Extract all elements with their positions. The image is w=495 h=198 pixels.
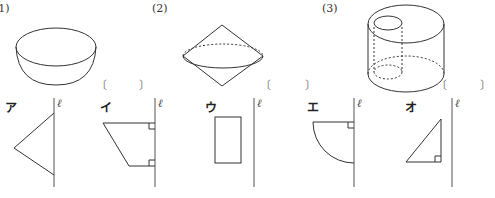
choice-label-u: ウ bbox=[205, 98, 217, 115]
figures-canvas bbox=[0, 0, 495, 198]
double-cone-figure bbox=[183, 25, 263, 86]
answer-field-2[interactable] bbox=[274, 76, 302, 90]
answer-field-3[interactable] bbox=[450, 76, 478, 90]
choice-a-figure bbox=[14, 98, 54, 187]
answer-bracket-1-close: 〕 bbox=[139, 76, 150, 92]
answer-bracket-2-close: 〕 bbox=[305, 76, 316, 92]
hollow-cylinder-figure bbox=[368, 5, 444, 92]
choice-e-figure bbox=[313, 98, 354, 187]
axis-label-u: ℓ bbox=[257, 97, 262, 110]
answer-bracket-2-open: 〔 bbox=[260, 76, 271, 92]
axis-label-i: ℓ bbox=[158, 97, 163, 110]
axis-label-a: ℓ bbox=[57, 97, 62, 110]
choice-label-e: エ bbox=[307, 98, 319, 115]
answer-bracket-1-open: 〔 bbox=[96, 76, 107, 92]
choice-label-a: ア bbox=[5, 98, 17, 115]
choice-label-i: イ bbox=[100, 98, 112, 115]
choice-u-figure bbox=[215, 98, 254, 187]
choice-label-o: オ bbox=[405, 98, 417, 115]
answer-bracket-3-close: 〕 bbox=[480, 76, 491, 92]
answer-field-1[interactable] bbox=[110, 76, 138, 90]
hemisphere-figure bbox=[16, 28, 96, 85]
axis-label-e: ℓ bbox=[357, 97, 362, 110]
axis-label-o: ℓ bbox=[455, 97, 460, 110]
answer-bracket-3-open: 〔 bbox=[436, 76, 447, 92]
